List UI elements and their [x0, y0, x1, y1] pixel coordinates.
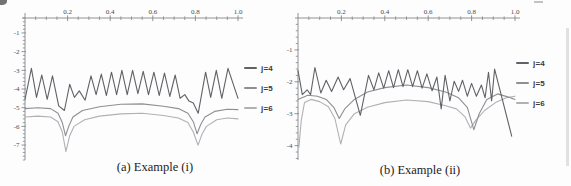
x-tick-label: 0.8 — [467, 8, 476, 16]
y-tick-label: -1 — [14, 29, 20, 37]
y-tick-label: -4 — [287, 142, 293, 150]
y-tick-label: -5 — [14, 104, 20, 112]
x-tick-label: 0.4 — [106, 8, 115, 16]
x-tick-label: 0.6 — [148, 8, 157, 16]
y-tick-label: -3 — [14, 67, 20, 75]
legend-label-j4: j=4 — [261, 64, 273, 73]
series-line-j4 — [298, 68, 512, 137]
legend-item-j5: j=5 — [516, 73, 545, 93]
y-tick-label: -6 — [14, 123, 20, 131]
figure-two-charts: 0.20.40.60.81.0-1-2-3-4-5-6-70.20.40.60.… — [0, 0, 571, 186]
series-line-j5 — [298, 85, 515, 130]
x-tick-label: 1.0 — [511, 8, 520, 16]
legend-label-j5: j=5 — [261, 84, 273, 93]
chart-b: 0.20.40.60.81.0-1-2-3-4 — [287, 8, 520, 160]
caption-b: (b) Example (ii) — [325, 163, 515, 178]
legend-item-j6: j=6 — [516, 93, 545, 113]
legend-b: j=4 j=5 j=6 — [516, 53, 545, 113]
legend-item-j4: j=4 — [516, 53, 545, 73]
series-line-j6 — [299, 96, 515, 147]
y-tick-label: -3 — [287, 110, 293, 118]
scan-mark-top — [534, 1, 543, 3]
legend-label-j4: j=4 — [533, 59, 545, 68]
caption-a: (a) Example (i) — [60, 160, 250, 175]
legend-item-j6: j=6 — [244, 98, 273, 118]
x-tick-label: 0.6 — [424, 8, 433, 16]
y-tick-label: -1 — [287, 46, 293, 54]
y-tick-label: -2 — [287, 78, 293, 86]
legend-line-j6-icon — [516, 102, 529, 104]
legend-label-j5: j=5 — [533, 79, 545, 88]
y-tick-label: -4 — [14, 85, 20, 93]
legend-label-j6: j=6 — [261, 104, 273, 113]
scan-strip-right-edge — [566, 28, 569, 166]
legend-line-j6-icon — [244, 107, 257, 109]
legend-line-j5-icon — [516, 82, 529, 84]
x-tick-label: 0.2 — [337, 8, 346, 16]
legend-line-j5-icon — [244, 87, 257, 89]
y-tick-label: -7 — [14, 141, 20, 149]
x-tick-label: 0.8 — [191, 8, 200, 16]
x-tick-label: 1.0 — [234, 8, 243, 16]
series-line-j4 — [25, 68, 238, 113]
plots-canvas: 0.20.40.60.81.0-1-2-3-4-5-6-70.20.40.60.… — [0, 0, 571, 186]
legend-item-j4: j=4 — [244, 58, 273, 78]
x-tick-label: 0.2 — [63, 8, 72, 16]
series-line-j6 — [25, 113, 238, 151]
y-tick-label: -2 — [14, 48, 20, 56]
legend-label-j6: j=6 — [533, 99, 545, 108]
legend-item-j5: j=5 — [244, 78, 273, 98]
chart-a: 0.20.40.60.81.0-1-2-3-4-5-6-7 — [14, 8, 243, 160]
x-tick-label: 0.4 — [380, 8, 389, 16]
legend-line-j4-icon — [516, 62, 529, 64]
legend-line-j4-icon — [244, 67, 257, 69]
series-line-j5 — [25, 104, 238, 136]
legend-a: j=4 j=5 j=6 — [244, 58, 273, 118]
